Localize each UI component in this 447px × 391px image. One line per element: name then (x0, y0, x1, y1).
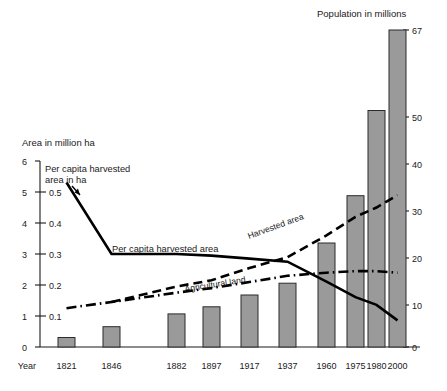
right-tick-0: 0 (412, 343, 417, 353)
left-primary-tick-3: 3 (22, 250, 27, 260)
left-secondary-tick-01: 0.1 (49, 312, 62, 322)
annot-percapita-callout-line2: area in ha (45, 175, 87, 185)
bar-2000 (389, 30, 406, 347)
left-secondary-tick-04: 0.4 (49, 219, 62, 229)
population-bars (58, 30, 406, 347)
left-primary-tick-0: 0 (22, 343, 27, 353)
bar-1846 (103, 327, 120, 347)
right-tick-67: 67 (412, 26, 422, 36)
x-label-1917: 1917 (239, 361, 259, 371)
left-primary-tick-2: 2 (22, 281, 27, 291)
bar-1917 (241, 295, 258, 347)
x-label-1821: 1821 (56, 361, 76, 371)
left-primary-tick-4: 4 (22, 219, 27, 229)
right-axis-title: Population in millions (317, 8, 406, 19)
left-primary-tick-6: 6 (22, 157, 27, 167)
annot-percapita-callout-line1: Per capita harvested (45, 164, 130, 174)
x-label-1846: 1846 (101, 361, 121, 371)
right-tick-40: 40 (412, 160, 422, 170)
right-tick-20: 20 (412, 254, 422, 264)
x-label-1882: 1882 (166, 361, 186, 371)
left-axis-title: Area in million ha (22, 137, 96, 148)
annot-agricultural-land: Agricultural land (184, 274, 247, 294)
bar-1937 (279, 283, 296, 347)
left-secondary-tick-05: 0.5 (49, 188, 62, 198)
bar-1960 (318, 243, 335, 347)
annot-per-capita-harvested-area: Per capita harvested area (112, 244, 219, 254)
x-label-2000: 2000 (387, 361, 407, 371)
left-secondary-axis: 0.5 0.4 0.3 0.2 0.1 (40, 188, 62, 322)
right-tick-10: 10 (412, 301, 422, 311)
left-secondary-tick-02: 0.2 (49, 281, 62, 291)
chart-figure: Area in million ha Population in million… (0, 0, 447, 391)
x-label-1980: 1980 (366, 361, 386, 371)
left-primary-tick-1: 1 (22, 312, 27, 322)
bar-1821 (58, 338, 75, 348)
left-primary-axis: 6 5 4 3 2 1 0 (22, 157, 40, 353)
x-label-1897: 1897 (201, 361, 221, 371)
chart-canvas: Area in million ha Population in million… (0, 0, 447, 391)
x-label-1937: 1937 (277, 361, 297, 371)
x-label-1975: 1975 (345, 361, 365, 371)
left-primary-ticks (35, 161, 40, 347)
bar-1897 (203, 307, 220, 347)
x-label-1960: 1960 (316, 361, 336, 371)
left-secondary-tick-03: 0.3 (49, 250, 62, 260)
left-primary-tick-5: 5 (22, 188, 27, 198)
left-secondary-ticks (40, 192, 46, 316)
bar-1882 (168, 314, 185, 347)
x-axis-category-labels: Year 1821 1846 1882 1897 1917 1937 1960 … (18, 361, 408, 371)
right-tick-50: 50 (412, 113, 422, 123)
right-tick-30: 30 (412, 207, 422, 217)
annot-harvested-area: Harvested area (246, 211, 305, 241)
bar-1980 (368, 111, 385, 348)
x-axis-year-label: Year (18, 361, 36, 371)
